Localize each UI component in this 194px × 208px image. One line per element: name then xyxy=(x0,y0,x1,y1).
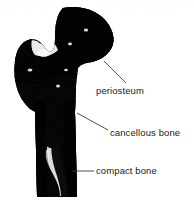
label-compact-bone: compact bone xyxy=(96,165,157,176)
leader-line-periosteum xyxy=(104,61,126,83)
label-periosteum: periosteum xyxy=(96,85,144,96)
scan-noise-artifact xyxy=(0,0,194,12)
femur-section-illustration xyxy=(0,0,194,208)
bone-section-body xyxy=(0,0,194,208)
label-cancellous-bone: cancellous bone xyxy=(110,127,180,138)
leader-lines xyxy=(72,61,126,171)
leader-line-cancellous-bone xyxy=(77,113,108,130)
bone-structure-figure: periosteum cancellous bone compact bone xyxy=(0,0,194,208)
